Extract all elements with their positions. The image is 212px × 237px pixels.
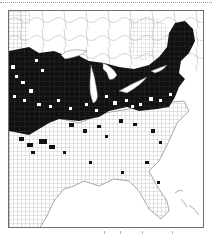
top-dotted-rule	[0, 2, 212, 3]
bottom-tick-marks	[0, 229, 212, 237]
county-map	[9, 11, 204, 228]
bahamas-islands	[175, 190, 199, 215]
map-frame	[8, 10, 204, 228]
